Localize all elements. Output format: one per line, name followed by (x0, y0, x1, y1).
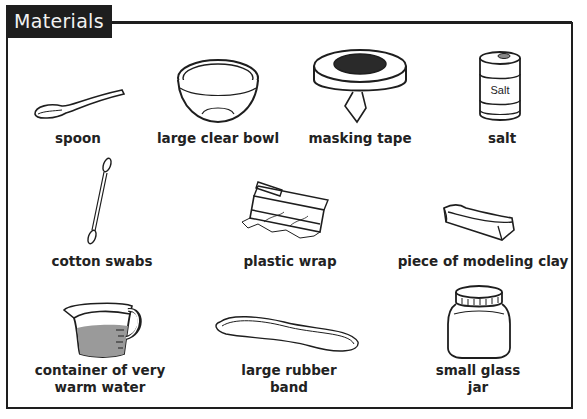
label-bowl: large clear bowl (157, 130, 279, 147)
label-modeling-clay: piece of modeling clay (398, 253, 569, 270)
label-cotton-swabs: cotton swabs (51, 253, 152, 270)
can-text: Salt (491, 84, 510, 96)
measuring-cup-icon (62, 300, 142, 358)
label-rubber-band: large rubber band (241, 362, 336, 396)
materials-title: Materials (6, 5, 112, 38)
label-spoon: spoon (55, 130, 101, 147)
rubber-band-icon (214, 312, 362, 354)
label-warm-water: container of very warm water (35, 362, 165, 396)
label-plastic-wrap: plastic wrap (243, 253, 336, 270)
glass-jar-icon (448, 284, 510, 358)
frame-top-border (112, 21, 572, 24)
label-warm-water-line1: container of very (35, 362, 165, 379)
bowl-icon (176, 58, 260, 124)
spoon-icon (30, 86, 130, 126)
salt-can-icon: Salt (478, 50, 522, 122)
label-rubber-band-line1: large rubber (241, 362, 336, 379)
label-salt: salt (488, 130, 516, 147)
masking-tape-icon (312, 46, 408, 124)
label-glass-jar: small glass jar (436, 362, 521, 396)
label-rubber-band-line2: band (241, 379, 336, 396)
plastic-wrap-icon (240, 182, 338, 242)
clay-icon (442, 202, 516, 242)
cotton-swab-icon (86, 158, 114, 244)
label-glass-jar-line2: jar (436, 379, 521, 396)
label-warm-water-line2: warm water (35, 379, 165, 396)
label-glass-jar-line1: small glass (436, 362, 521, 379)
label-masking-tape: masking tape (308, 130, 411, 147)
